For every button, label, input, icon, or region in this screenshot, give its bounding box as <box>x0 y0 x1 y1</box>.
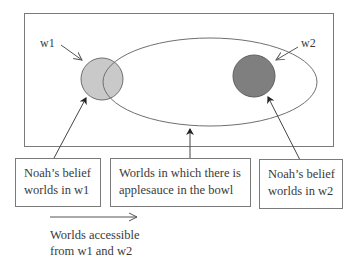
box-line: Worlds in which there is <box>119 165 242 182</box>
box-line: applesauce in the bowl <box>119 182 242 199</box>
w1-label: w1 <box>40 36 55 51</box>
box-line: Noah’s belief <box>24 165 92 182</box>
applesauce-worlds-box: Worlds in which there is applesauce in t… <box>110 158 251 207</box>
belief-worlds-w1-box: Noah’s belief worlds in w1 <box>15 158 101 207</box>
w2-label: w2 <box>301 36 316 51</box>
box-line: worlds in w2 <box>268 183 334 200</box>
w1-pointer-arrow <box>61 45 82 60</box>
legend-line: Worlds accessible <box>50 227 140 243</box>
belief-worlds-w2-box: Noah’s belief worlds in w2 <box>259 159 343 209</box>
box-line: worlds in w1 <box>24 182 92 199</box>
belief-w2-arrow <box>268 97 300 160</box>
w1-belief-circle <box>81 58 123 100</box>
legend-line: from w1 and w2 <box>50 243 140 259</box>
w2-belief-circle <box>233 55 275 97</box>
legend-text: Worlds accessible from w1 and w2 <box>50 227 140 259</box>
belief-w1-arrow <box>54 98 86 158</box>
box-line: Noah’s belief <box>268 166 334 183</box>
applesauce-worlds-ellipse <box>103 38 317 126</box>
